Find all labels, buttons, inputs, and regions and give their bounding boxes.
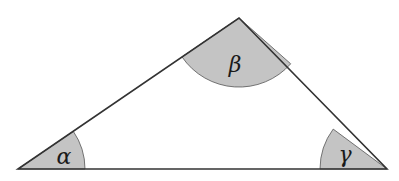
angle-gamma-label: γ (338, 142, 352, 167)
angle-beta-label: β (228, 52, 242, 77)
triangle-diagram: α β γ (0, 0, 399, 181)
angle-alpha-sector (18, 131, 85, 169)
triangle-svg: α β γ (0, 0, 399, 181)
angle-alpha-label: α (57, 144, 72, 169)
